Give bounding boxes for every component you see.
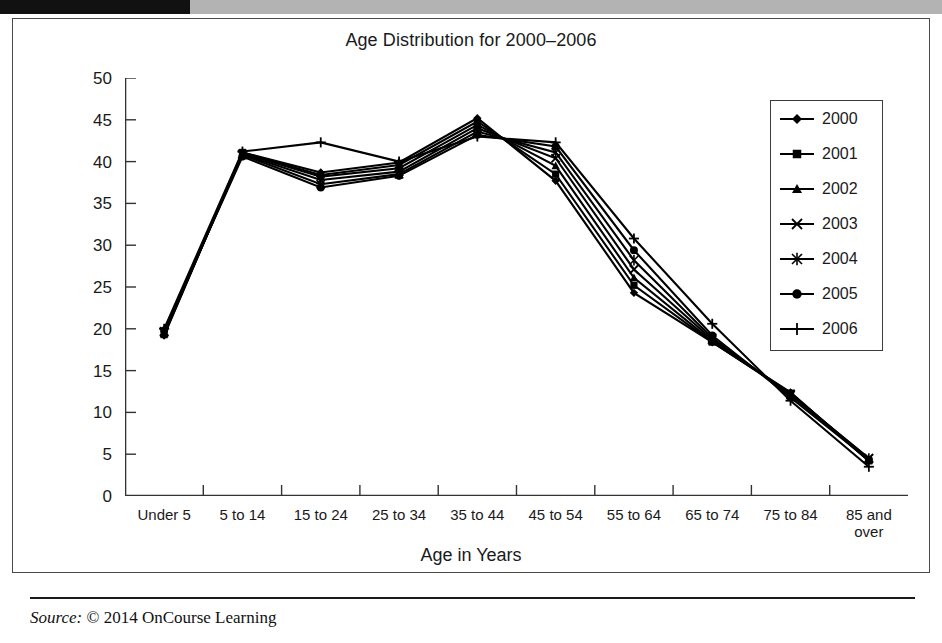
series-marker-circle <box>317 184 325 192</box>
legend-label: 2001 <box>822 145 858 163</box>
y-tick-label: 0 <box>76 488 112 505</box>
x-tick-label: 5 to 14 <box>203 506 281 523</box>
x-tick-label: 75 to 84 <box>751 506 829 523</box>
x-tick-label: 25 to 34 <box>360 506 438 523</box>
legend-item-2003[interactable]: 2003 <box>771 206 882 241</box>
y-tick-label: 50 <box>76 70 112 87</box>
series-marker-square <box>552 171 559 178</box>
chart-title: Age Distribution for 2000–2006 <box>0 30 942 51</box>
x-tick-label: 45 to 54 <box>517 506 595 523</box>
source-divider <box>30 597 915 599</box>
x-tick-label: 85 and over <box>830 506 908 540</box>
legend-label: 2000 <box>822 110 858 128</box>
legend-item-2002[interactable]: 2002 <box>771 171 882 206</box>
series-marker-circle <box>708 331 716 339</box>
legend-label: 2006 <box>822 320 858 338</box>
chart-series-2003 <box>160 124 873 463</box>
legend-marker-plus-icon <box>778 319 816 339</box>
series-marker-circle <box>792 289 802 299</box>
chart-series-2002 <box>160 121 873 464</box>
series-marker-asterisk <box>630 255 638 265</box>
chart-legend: 2000200120022003200420052006 <box>770 100 883 351</box>
series-marker-diamond <box>792 114 802 124</box>
x-tick-label: Under 5 <box>125 506 203 523</box>
source-caption-text: © 2014 OnCourse Learning <box>87 608 277 627</box>
legend-marker-circle-icon <box>778 284 816 304</box>
legend-label: 2002 <box>822 180 858 198</box>
y-tick-label: 35 <box>76 195 112 212</box>
x-tick-label: 35 to 44 <box>438 506 516 523</box>
chart-series-2006 <box>159 131 874 471</box>
legend-marker-triangle-icon <box>778 179 816 199</box>
legend-marker-x-icon <box>778 214 816 234</box>
source-caption-label: Source: <box>30 608 82 627</box>
legend-item-2005[interactable]: 2005 <box>771 276 882 311</box>
series-marker-plus <box>791 323 803 335</box>
y-tick-label: 10 <box>76 404 112 421</box>
page-top-band <box>0 0 942 14</box>
page-top-band-black-block <box>0 0 190 14</box>
legend-item-2004[interactable]: 2004 <box>771 241 882 276</box>
chart-series-2004 <box>160 126 873 463</box>
y-tick-label: 5 <box>76 446 112 463</box>
x-tick-label: 55 to 64 <box>595 506 673 523</box>
chart-series-2001 <box>161 118 873 465</box>
figure-page: Age Distribution for 2000–2006 In Millio… <box>0 0 942 643</box>
legend-item-2000[interactable]: 2000 <box>771 101 882 136</box>
y-tick-label: 15 <box>76 363 112 380</box>
legend-item-2001[interactable]: 2001 <box>771 136 882 171</box>
y-tick-label: 30 <box>76 237 112 254</box>
x-axis-title: Age in Years <box>0 545 942 566</box>
x-tick-label: 65 to 74 <box>673 506 751 523</box>
y-tick-label: 25 <box>76 279 112 296</box>
legend-label: 2005 <box>822 285 858 303</box>
legend-marker-diamond-icon <box>778 109 816 129</box>
series-marker-square <box>793 149 802 158</box>
legend-marker-square-icon <box>778 144 816 164</box>
source-caption: Source: © 2014 OnCourse Learning <box>30 608 276 628</box>
legend-label: 2003 <box>822 215 858 233</box>
series-marker-plus <box>316 137 326 147</box>
x-tick-label: 15 to 24 <box>282 506 360 523</box>
y-tick-label: 45 <box>76 112 112 129</box>
series-marker-square <box>630 282 637 289</box>
chart-series-2005 <box>160 131 873 464</box>
y-tick-label: 40 <box>76 154 112 171</box>
series-marker-circle <box>395 172 403 180</box>
y-tick-label: 20 <box>76 321 112 338</box>
legend-item-2006[interactable]: 2006 <box>771 311 882 346</box>
series-marker-circle <box>630 246 638 254</box>
series-marker-x <box>630 265 638 273</box>
legend-marker-asterisk-icon <box>778 249 816 269</box>
legend-label: 2004 <box>822 250 858 268</box>
